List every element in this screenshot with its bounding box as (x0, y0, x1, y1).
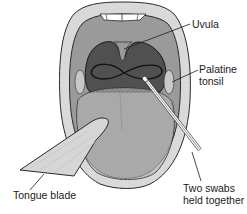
label-uvula: Uvula (192, 18, 219, 30)
throat-swab-diagram: Uvula Palatine tonsil Tongue blade Two s… (0, 0, 247, 214)
upper-teeth (100, 14, 146, 21)
label-palatine-tonsil-line2: tonsil (199, 75, 237, 87)
label-palatine-tonsil: Palatine tonsil (199, 63, 237, 87)
label-two-swabs-line2: held together (183, 194, 244, 206)
label-palatine-tonsil-line1: Palatine (199, 63, 237, 75)
label-two-swabs: Two swabs held together (183, 182, 244, 206)
label-tongue-blade: Tongue blade (13, 189, 76, 201)
label-two-swabs-line1: Two swabs (183, 182, 244, 194)
